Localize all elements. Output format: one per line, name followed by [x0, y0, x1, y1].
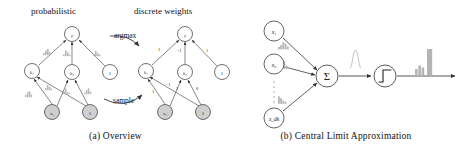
- svg-text:h₁: h₁: [30, 70, 34, 75]
- svg-text:x₂: x₂: [271, 62, 277, 68]
- edge-x1-sum: [283, 38, 317, 70]
- caption-b: (b) Central Limit Approximation: [231, 131, 461, 141]
- edge-x2-sum: [285, 67, 315, 75]
- svg-text:h₂: h₂: [183, 71, 187, 76]
- label-argmax: argmax: [114, 31, 136, 40]
- activation-node: [374, 65, 396, 87]
- svg-text:x₁: x₁: [162, 111, 167, 116]
- left-graph-nodes: y h₁ h₂ 1 x₁ 1: [25, 27, 118, 120]
- label-sample: sample: [113, 96, 134, 105]
- figure-container: probabilistic discrete weights argmax sa…: [0, 0, 461, 153]
- weight-lower-a: 1: [152, 89, 154, 94]
- gaussian-bump-icon: [350, 50, 361, 68]
- caption-a: (a) Overview: [0, 131, 231, 141]
- vertical-dots-icon: [273, 81, 275, 103]
- panel-central-limit: x₁ x₂ x_dk Σ: [231, 0, 461, 153]
- panel-overview: probabilistic discrete weights argmax sa…: [0, 0, 231, 153]
- weight-top-right: 1: [206, 48, 208, 53]
- edge-weight-histograms: [278, 42, 289, 104]
- input-nodes: x₁ x₂ x_dk: [264, 21, 284, 128]
- weight-lower-b: −1: [166, 82, 171, 87]
- heading-discrete-weights: discrete weights: [134, 6, 192, 16]
- weight-dist-1: [278, 42, 289, 49]
- svg-text:x₁: x₁: [271, 29, 277, 35]
- weight-dist-d: [278, 96, 286, 103]
- svg-text:h₂: h₂: [70, 71, 74, 76]
- weight-lower-c: 1: [176, 86, 178, 91]
- output-histogram: [415, 49, 432, 76]
- svg-text:x_dk: x_dk: [268, 116, 280, 122]
- edge-xd-sum: [283, 83, 317, 111]
- svg-text:h₁: h₁: [144, 70, 148, 75]
- weight-lower-d: 0: [196, 86, 199, 91]
- sum-node-label: Σ: [324, 70, 330, 82]
- weight-top-center: −1: [177, 48, 182, 53]
- right-graph-nodes: y h₁ h₂ 1 x₁ 1: [139, 27, 230, 120]
- heading-probabilistic: probabilistic: [31, 6, 76, 16]
- weight-top-left: 1: [158, 47, 160, 52]
- svg-text:x₁: x₁: [49, 111, 54, 116]
